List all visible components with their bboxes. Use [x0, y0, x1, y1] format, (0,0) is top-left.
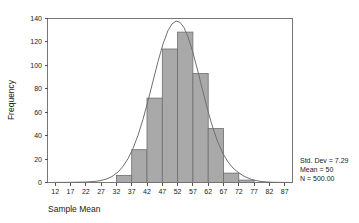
- x-tick-label-72: 72: [235, 188, 243, 195]
- x-tick-label-22: 22: [82, 188, 90, 195]
- table-row: [147, 98, 162, 182]
- histogram-bars: [116, 32, 254, 182]
- y-tick-label-140: 140: [30, 15, 42, 22]
- x-tick-label-42: 42: [143, 188, 151, 195]
- x-tick-label-82: 82: [266, 188, 274, 195]
- x-axis-title: Sample Mean: [48, 204, 101, 214]
- x-tick-label-87: 87: [281, 188, 289, 195]
- x-tick-label-37: 37: [128, 188, 136, 195]
- table-row: [224, 173, 239, 182]
- x-tick-label-77: 77: [250, 188, 258, 195]
- x-tick-label-67: 67: [220, 188, 228, 195]
- x-tick-label-27: 27: [97, 188, 105, 195]
- y-axis-ticks: 0 20 40 60 80 100 120 140: [30, 15, 47, 186]
- y-tick-label-120: 120: [30, 38, 42, 45]
- x-tick-label-62: 62: [204, 188, 212, 195]
- stat-std-dev: Std. Dev = 7.29: [300, 157, 349, 164]
- table-row: [132, 150, 147, 183]
- x-tick-label-47: 47: [158, 188, 166, 195]
- x-tick-label-52: 52: [174, 188, 182, 195]
- table-row: [239, 180, 254, 182]
- histogram-figure: 0 20 40 60 80 100 120 140 Frequency: [0, 0, 359, 223]
- table-row: [193, 74, 208, 183]
- y-tick-label-40: 40: [34, 132, 42, 139]
- table-row: [116, 176, 131, 183]
- statistics-annotation: Std. Dev = 7.29 Mean = 50 N = 500.00: [300, 157, 349, 182]
- y-tick-label-0: 0: [38, 179, 42, 186]
- table-row: [178, 32, 193, 182]
- x-tick-label-12: 12: [51, 188, 59, 195]
- y-tick-label-80: 80: [34, 85, 42, 92]
- x-tick-label-32: 32: [113, 188, 121, 195]
- y-tick-label-60: 60: [34, 109, 42, 116]
- y-tick-label-20: 20: [34, 156, 42, 163]
- y-axis-title: Frequency: [6, 79, 16, 120]
- x-tick-label-57: 57: [189, 188, 197, 195]
- y-tick-label-100: 100: [30, 62, 42, 69]
- stat-mean: Mean = 50: [300, 166, 333, 173]
- x-tick-label-17: 17: [67, 188, 75, 195]
- table-row: [162, 49, 177, 183]
- x-axis-ticks: 12 17 22 27 32 37 42 47 52 57 62 67 72 7…: [51, 183, 288, 196]
- stat-n: N = 500.00: [300, 175, 335, 182]
